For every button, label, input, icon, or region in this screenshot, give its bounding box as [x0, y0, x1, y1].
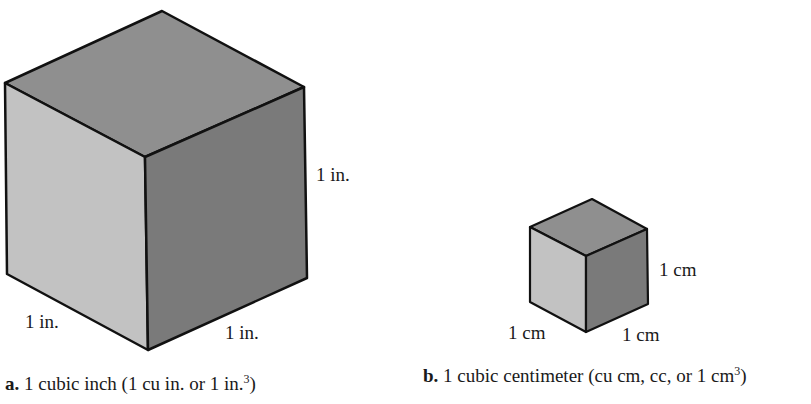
figure-a-caption: a. 1 cubic inch (1 cu in. or 1 in.3)	[5, 374, 256, 393]
figure-b-caption-text: 1 cubic centimeter (cu cm, cc, or 1 cm	[443, 365, 734, 386]
figure-b-letter: b.	[423, 365, 438, 386]
figure-b-caption: b. 1 cubic centimeter (cu cm, cc, or 1 c…	[423, 366, 747, 385]
figure-b-caption-close: )	[740, 365, 746, 386]
large-cube	[5, 11, 307, 350]
small-cube-width-label: 1 cm	[622, 325, 659, 344]
large-cube-width-label: 1 in.	[225, 323, 259, 342]
small-cube-height-label: 1 cm	[659, 260, 696, 279]
small-cube	[530, 199, 648, 332]
cube-diagram	[0, 0, 811, 404]
figure-a-letter: a.	[5, 373, 19, 394]
large-cube-height-label: 1 in.	[316, 165, 350, 184]
small-cube-depth-label: 1 cm	[508, 323, 545, 342]
figure-a-caption-text: 1 cubic inch (1 cu in. or 1 in.	[24, 373, 244, 394]
figure-a-caption-close: )	[250, 373, 256, 394]
large-cube-depth-label: 1 in.	[25, 312, 59, 331]
